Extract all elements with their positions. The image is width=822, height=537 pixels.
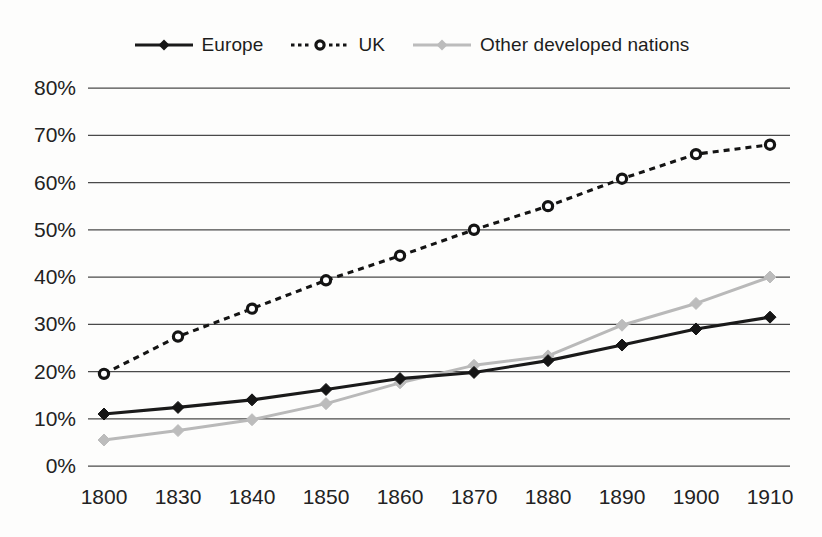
legend-label-uk: UK <box>358 34 385 56</box>
legend-label-europe: Europe <box>202 34 264 56</box>
x-tick-label: 1800 <box>81 485 128 508</box>
x-tick-label: 1840 <box>229 485 276 508</box>
legend-label-other: Other developed nations <box>480 34 689 56</box>
y-tick-label: 60% <box>34 171 76 194</box>
x-tick-label: 1830 <box>155 485 202 508</box>
legend-item-uk[interactable]: UK <box>289 34 385 56</box>
data-point-other[interactable] <box>172 425 184 437</box>
series-layer <box>104 145 770 440</box>
data-point-europe[interactable] <box>468 366 480 378</box>
data-point-other[interactable] <box>246 414 258 426</box>
x-tick-label: 1850 <box>303 485 350 508</box>
y-tick-label: 50% <box>34 218 76 241</box>
data-point-europe[interactable] <box>172 401 184 413</box>
data-point-europe[interactable] <box>320 383 332 395</box>
legend-item-other[interactable]: Other developed nations <box>411 34 689 56</box>
y-axis-tick-labels: 0%10%20%30%40%50%60%70%80% <box>34 76 76 477</box>
y-tick-label: 30% <box>34 312 76 335</box>
data-point-uk[interactable] <box>543 202 552 211</box>
series-line-other <box>104 277 770 440</box>
y-tick-label: 0% <box>46 454 76 477</box>
data-point-europe[interactable] <box>764 311 776 323</box>
markers-layer <box>98 140 776 446</box>
x-tick-label: 1860 <box>377 485 424 508</box>
data-point-other[interactable] <box>616 319 628 331</box>
data-point-uk[interactable] <box>247 304 256 313</box>
legend-item-europe[interactable]: Europe <box>133 34 264 56</box>
data-point-other[interactable] <box>320 398 332 410</box>
y-tick-label: 70% <box>34 123 76 146</box>
x-tick-label: 1900 <box>673 485 720 508</box>
data-point-uk[interactable] <box>469 225 478 234</box>
data-point-uk[interactable] <box>617 174 626 183</box>
data-point-europe[interactable] <box>246 394 258 406</box>
series-line-europe <box>104 317 770 414</box>
data-point-uk[interactable] <box>691 150 700 159</box>
legend-swatch-europe <box>133 37 195 53</box>
legend-swatch-uk <box>289 37 351 53</box>
gridlines <box>88 88 790 466</box>
data-point-other[interactable] <box>764 271 776 283</box>
urbanization-line-chart: Europe UK Other developed nations <box>0 0 822 537</box>
data-point-uk[interactable] <box>395 251 404 260</box>
x-axis-tick-labels: 1800183018401850186018701880189019001910 <box>81 485 794 508</box>
chart-legend: Europe UK Other developed nations <box>0 28 822 62</box>
x-tick-label: 1910 <box>747 485 794 508</box>
data-point-uk[interactable] <box>173 332 182 341</box>
x-tick-label: 1870 <box>451 485 498 508</box>
y-tick-label: 20% <box>34 360 76 383</box>
data-point-uk[interactable] <box>765 140 774 149</box>
y-tick-label: 40% <box>34 265 76 288</box>
y-tick-label: 80% <box>34 76 76 99</box>
y-tick-label: 10% <box>34 407 76 430</box>
plot-area: 0%10%20%30%40%50%60%70%80% 1800183018401… <box>0 62 822 537</box>
legend-swatch-other <box>411 37 473 53</box>
data-point-europe[interactable] <box>616 339 628 351</box>
data-point-other[interactable] <box>690 297 702 309</box>
data-point-other[interactable] <box>98 434 110 446</box>
data-point-uk[interactable] <box>99 369 108 378</box>
x-tick-label: 1890 <box>599 485 646 508</box>
data-point-uk[interactable] <box>321 276 330 285</box>
series-line-uk <box>104 145 770 374</box>
x-tick-label: 1880 <box>525 485 572 508</box>
